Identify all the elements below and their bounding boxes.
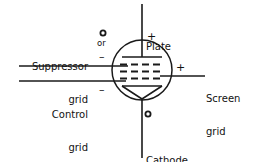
or-label: or	[97, 39, 106, 48]
screen-grid-polarity-sign: +	[176, 62, 185, 73]
screen-grid-label-line2: grid	[206, 126, 252, 137]
control-grid-label: Control grid	[4, 87, 88, 162]
suppressor-grid-polarity-sign: –	[99, 51, 105, 62]
screen-grid-label: Screen grid	[206, 71, 252, 159]
control-grid-label-line1: Control	[4, 109, 88, 120]
screen-grid-label-line1: Screen	[206, 93, 252, 104]
control-grid-polarity-sign: –	[99, 84, 105, 95]
cathode-label-text: Cathode	[146, 155, 202, 162]
suppressor-alt-connection-circle-icon	[100, 30, 105, 35]
tube-schematic-figure: Suppressor grid Control grid Screen grid…	[0, 0, 253, 162]
cathode-connection-circle-icon	[145, 111, 150, 116]
control-grid-label-line2: grid	[4, 142, 88, 153]
suppressor-grid-label-line1: Suppressor	[4, 61, 88, 72]
plate-polarity-sign: +	[147, 31, 156, 42]
cathode-label: Cathode	[146, 133, 202, 162]
